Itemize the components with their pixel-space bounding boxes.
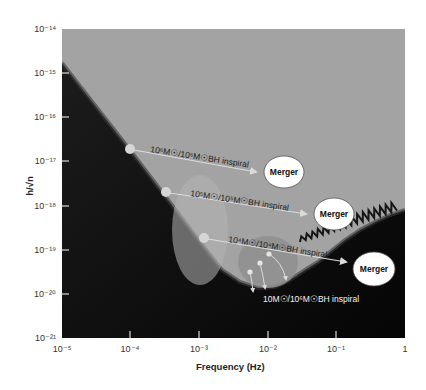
svg-text:Merger: Merger bbox=[320, 209, 349, 219]
svg-text:10⁻³: 10⁻³ bbox=[190, 344, 208, 354]
x-axis-title: Frequency (Hz) bbox=[196, 361, 265, 372]
merger-bubble-1e5: Merger bbox=[314, 198, 354, 230]
svg-text:Merger: Merger bbox=[360, 264, 389, 274]
x-tick-labels: 10⁻⁵ 10⁻⁴ 10⁻³ 10⁻² 10⁻¹ 1 bbox=[53, 344, 408, 354]
merger-bubble-1e6: Merger bbox=[264, 156, 304, 188]
svg-text:10⁻²¹: 10⁻²¹ bbox=[35, 333, 56, 343]
y-axis-title: h/√n bbox=[24, 176, 35, 196]
svg-text:10⁻¹⁷: 10⁻¹⁷ bbox=[35, 156, 56, 166]
merger-bubble-1e4: Merger bbox=[353, 252, 395, 286]
svg-text:10⁻¹⁸: 10⁻¹⁸ bbox=[34, 201, 56, 211]
svg-text:10⁻¹⁶: 10⁻¹⁶ bbox=[34, 112, 56, 122]
start-dot bbox=[125, 144, 135, 154]
svg-text:Merger: Merger bbox=[270, 167, 299, 177]
chart: 10⁶M☉/10⁶M☉BH inspiral 10⁵M☉/10⁵M☉BH ins… bbox=[0, 0, 426, 390]
label-inspiral-emri: 10M☉/10⁶M☉BH inspiral bbox=[263, 294, 359, 304]
svg-text:10⁻¹⁹: 10⁻¹⁹ bbox=[34, 245, 56, 255]
start-dot bbox=[161, 187, 171, 197]
svg-text:1: 1 bbox=[402, 344, 407, 354]
y-tick-labels: 10⁻¹⁴ 10⁻¹⁵ 10⁻¹⁶ 10⁻¹⁷ 10⁻¹⁸ 10⁻¹⁹ 10⁻²… bbox=[34, 24, 56, 343]
svg-text:10⁻⁴: 10⁻⁴ bbox=[121, 344, 140, 354]
svg-text:10⁻⁵: 10⁻⁵ bbox=[53, 344, 72, 354]
svg-text:10⁻²: 10⁻² bbox=[259, 344, 277, 354]
svg-text:10⁻¹: 10⁻¹ bbox=[327, 344, 345, 354]
start-dot bbox=[199, 233, 209, 243]
svg-text:10⁻²⁰: 10⁻²⁰ bbox=[34, 289, 56, 299]
svg-text:10⁻¹⁵: 10⁻¹⁵ bbox=[34, 68, 56, 78]
svg-text:10⁻¹⁴: 10⁻¹⁴ bbox=[34, 24, 56, 34]
